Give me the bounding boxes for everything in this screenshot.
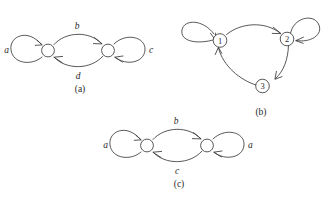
edge-b-loop-2 (291, 18, 320, 41)
caption-panel-c: (c) (174, 179, 185, 190)
arrowhead-b-arc-1-2 (272, 27, 281, 33)
node-c-right[interactable] (201, 139, 214, 152)
arrowhead-c-arc-bottom (153, 151, 162, 157)
node-label-b-2: 2 (285, 34, 289, 44)
caption-panel-a: (a) (75, 84, 86, 95)
edge-label-c-loop-right: a (248, 140, 253, 150)
state-diagram-figure: a b d c (a) (0, 0, 330, 201)
edge-label-a-loop-right: c (149, 45, 154, 55)
edge-a-arc-bottom (55, 56, 104, 67)
edge-b-arc-2-3 (276, 46, 289, 79)
edge-a-loop-right (114, 37, 145, 62)
edge-a-loop-left (11, 35, 42, 62)
caption-panel-b: (b) (255, 107, 266, 118)
node-label-b-3: 3 (260, 81, 264, 91)
edge-c-loop-right (213, 132, 244, 157)
edge-label-c-arc-top: b (174, 116, 179, 126)
edge-c-loop-left (110, 130, 141, 157)
arrowhead-b-loop-2 (296, 37, 304, 43)
edge-label-a-loop-left: a (4, 45, 9, 55)
edge-label-c-arc-bottom: c (175, 166, 180, 176)
panel-b: 1 2 3 (b) (182, 18, 320, 118)
arrowhead-a-arc-bottom (54, 56, 63, 62)
arrowhead-a-loop-right (115, 56, 123, 62)
panel-a: a b d c (a) (4, 21, 154, 95)
edge-b-loop-1 (182, 22, 215, 42)
panel-c: a b c a (c) (103, 116, 253, 190)
edge-c-arc-bottom (154, 151, 203, 162)
edge-b-arc-1-2 (227, 25, 281, 35)
node-c-left[interactable] (141, 139, 154, 152)
arrowhead-c-loop-right (214, 151, 222, 157)
edge-c-arc-top (153, 129, 201, 139)
edge-a-arc-top (54, 34, 102, 44)
edge-b-arc-3-1 (219, 48, 257, 85)
node-a-left[interactable] (42, 44, 55, 57)
edge-label-c-loop-left: a (103, 140, 108, 150)
edge-label-a-arc-top: b (75, 21, 80, 31)
node-a-right[interactable] (102, 44, 115, 57)
node-label-b-1: 1 (218, 36, 222, 46)
edge-label-a-arc-bottom: d (76, 71, 81, 81)
